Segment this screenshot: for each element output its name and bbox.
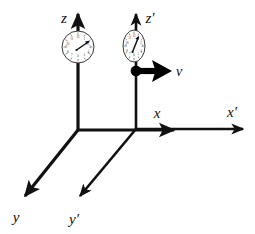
svg-text:11: 11 — [128, 36, 131, 40]
svg-text:12: 12 — [133, 34, 137, 38]
z-prime-axis-label: z′ — [144, 10, 155, 26]
clock-moving-hub — [131, 51, 133, 53]
clock-moving: 12 1 2 3 4 5 6 7 8 9 10 11 — [123, 30, 145, 62]
rest-frame-axes — [25, 14, 174, 196]
physics-diagram: z z′ x x′ y y′ — [0, 0, 255, 234]
clock-rest-hub — [75, 49, 77, 51]
y-axis-line — [25, 130, 78, 196]
svg-text:10: 10 — [125, 41, 129, 45]
svg-text:10: 10 — [66, 42, 70, 46]
z-axis-label: z — [60, 10, 67, 26]
svg-text:12: 12 — [76, 35, 80, 39]
x-axis-label: x — [153, 105, 161, 121]
moving-frame-axes — [80, 14, 243, 196]
velocity-label: v — [176, 64, 183, 79]
clock-rest: 12 1 2 3 4 5 6 7 8 9 10 11 — [62, 31, 94, 63]
y-prime-axis-line — [80, 129, 136, 196]
y-prime-axis-label: y′ — [67, 211, 80, 227]
x-prime-axis-label: x′ — [226, 104, 238, 120]
diagram-canvas: z z′ x x′ y y′ — [0, 0, 255, 234]
svg-text:11: 11 — [70, 37, 73, 41]
y-axis-label: y — [11, 209, 20, 225]
